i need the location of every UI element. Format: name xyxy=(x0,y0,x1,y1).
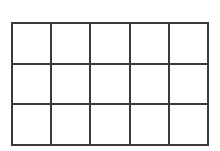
grid-cell xyxy=(12,64,51,105)
grid-cell xyxy=(169,104,208,145)
grid-cell xyxy=(169,23,208,64)
grid-cell xyxy=(130,23,169,64)
grid-cell xyxy=(90,23,129,64)
grid-cell xyxy=(51,104,90,145)
empty-grid-table xyxy=(11,22,209,146)
grid-cell xyxy=(12,104,51,145)
grid-cell xyxy=(130,104,169,145)
grid-cell xyxy=(169,64,208,105)
grid-cell xyxy=(51,64,90,105)
grid-cell xyxy=(130,64,169,105)
grid-cell xyxy=(12,23,51,64)
grid-cell xyxy=(90,104,129,145)
grid-cell xyxy=(90,64,129,105)
grid-cell xyxy=(51,23,90,64)
